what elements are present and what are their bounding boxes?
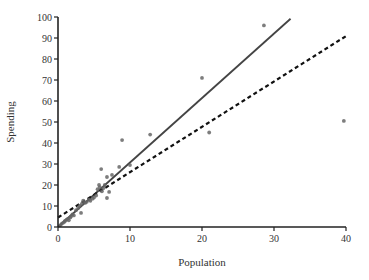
y-tick-label: 70 [42, 75, 52, 86]
data-point [110, 173, 114, 177]
data-point [342, 119, 346, 123]
data-point [262, 24, 266, 28]
data-point [120, 138, 124, 142]
y-tick-label: 30 [42, 159, 52, 170]
ticks: 0102030405060708090100010203040 [37, 12, 351, 245]
y-axis-label: Spending [4, 101, 16, 143]
data-point [207, 131, 211, 135]
data-point [105, 196, 109, 200]
data-point [94, 194, 98, 198]
x-tick-label: 0 [56, 233, 61, 244]
data-point [99, 167, 103, 171]
data-point [148, 133, 152, 137]
x-tick-label: 30 [269, 233, 279, 244]
x-tick-label: 20 [197, 233, 207, 244]
x-tick-label: 40 [341, 233, 351, 244]
data-point [200, 76, 204, 80]
data-point [79, 211, 83, 215]
x-tick-label: 10 [125, 233, 135, 244]
y-tick-label: 50 [42, 117, 52, 128]
y-tick-label: 0 [47, 222, 52, 233]
data-point [117, 165, 121, 169]
x-axis-label: Population [178, 256, 226, 268]
scatter-chart: 0102030405060708090100010203040 Populati… [0, 0, 369, 280]
data-point [91, 197, 95, 201]
fit-lines [58, 19, 346, 227]
y-tick-label: 60 [42, 96, 52, 107]
data-point [107, 190, 111, 194]
axes [58, 17, 346, 227]
data-point [98, 185, 102, 189]
data-point [72, 214, 76, 218]
y-tick-label: 80 [42, 54, 52, 65]
data-points [58, 24, 345, 228]
y-tick-label: 100 [37, 12, 52, 23]
y-tick-label: 10 [42, 201, 52, 212]
solid-fit-line [58, 19, 291, 227]
data-point [128, 163, 132, 167]
y-tick-label: 90 [42, 33, 52, 44]
y-tick-label: 20 [42, 180, 52, 191]
data-point [103, 183, 107, 187]
data-point [105, 175, 109, 179]
y-tick-label: 40 [42, 138, 52, 149]
